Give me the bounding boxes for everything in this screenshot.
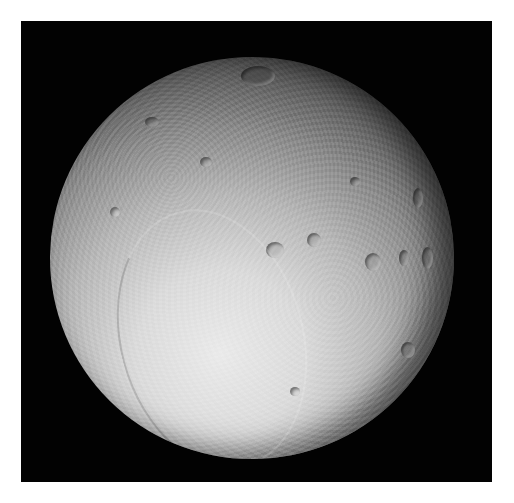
crater-right-1 [365, 253, 381, 271]
moon-disc [50, 57, 454, 459]
crater-right-upper [413, 188, 423, 208]
crater-small-3 [145, 117, 159, 127]
crater-right-3 [422, 247, 433, 269]
crater-mid-2 [307, 233, 321, 247]
crater-small-2 [200, 157, 212, 167]
crater-lower-right [401, 342, 415, 358]
large-crater-top [241, 66, 275, 86]
crater-right-2 [399, 250, 409, 266]
crater-small-1 [110, 207, 120, 217]
crater-small-4 [350, 177, 360, 186]
